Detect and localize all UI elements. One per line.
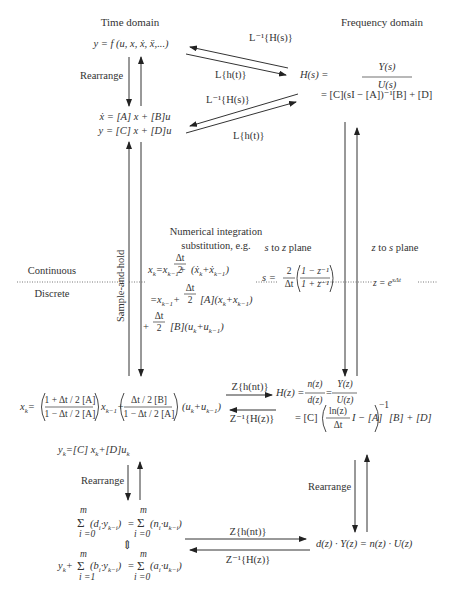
discrete-frac1-den: 1 − Δt / 2 [A] xyxy=(45,410,96,420)
sum1-rhs: (ni·uk−i) xyxy=(150,519,182,532)
hz-frac1-den: d(z) xyxy=(308,396,323,406)
sum1-sigma-right: Σ xyxy=(137,516,145,529)
hz-ss-frac-num: ln(z) xyxy=(329,407,347,417)
ode-equation: y = f (u, x, ẋ, ẍ,...) xyxy=(93,39,168,50)
s-to-z-label: s to z plane xyxy=(265,243,312,254)
discrete-frac2-num: Δt / 2 [B] xyxy=(131,396,167,406)
sum1-sigma-left: Σ xyxy=(77,516,85,529)
continuous-label: Continuous xyxy=(28,266,76,277)
hz-ss-frac-den: Δt xyxy=(334,421,343,431)
sum1-lhs: (di·yk−i) xyxy=(90,519,121,532)
hz-ss-exponent: −1 xyxy=(379,401,389,411)
z-forward-label-top: Z{h(nt)} xyxy=(232,382,269,393)
rearrange-label-bottom-right: Rearrange xyxy=(308,482,351,493)
sum2-bottom-right: i =0 xyxy=(134,573,150,583)
hz-ss-mid: I − [A] xyxy=(352,413,382,424)
s-to-z-inner-den: 1 + z⁻¹ xyxy=(301,280,328,290)
sum2-sigma-left: Σ xyxy=(77,559,85,572)
sum2-lhs: (bi·yk−i) xyxy=(90,561,121,574)
z-forward-label-bottom: Z{h(nt)} xyxy=(230,527,267,538)
integration-eq3-frac-den: 2 xyxy=(157,324,162,334)
laplace-forward-label-bottom: L{h(t)} xyxy=(233,131,265,142)
polynomial-equation: d(z) · Y(z) = n(z) · U(z) xyxy=(316,539,412,550)
sum2-rhs: (ai·uk−i) xyxy=(150,561,182,574)
s-to-z-eq-lhs: s = xyxy=(262,273,276,284)
discrete-label: Discrete xyxy=(35,289,70,300)
discrete-tail: (uk+uk−1) xyxy=(182,402,221,415)
numerical-integration-subtitle: substitution, e.g. xyxy=(181,241,250,252)
integration-eq2-frac-den: 2 xyxy=(188,296,193,306)
integration-eq3-frac-num: Δt xyxy=(155,312,164,322)
laplace-inverse-label-bottom: L⁻¹{H(s)} xyxy=(206,95,250,106)
state-space-transfer-function: = [C](sI − [A])⁻¹[B] + [D] xyxy=(321,90,432,101)
rearrange-label-bottom-left: Rearrange xyxy=(81,476,124,487)
hz-frac2-den: U(z) xyxy=(337,396,354,406)
z-inverse-label-bottom: Z⁻¹{H(z)} xyxy=(226,555,270,566)
hz-frac1-num: n(z) xyxy=(308,380,323,390)
integration-eq2-tail: [A](xk+xk−1) xyxy=(200,295,252,308)
integration-eq1-frac-num: Δt xyxy=(176,254,185,264)
s-to-z-frac-num: 2 xyxy=(287,267,292,277)
z-inverse-label-top: Z⁻¹{H(z)} xyxy=(230,414,274,425)
integration-eq1-frac-den: 2 xyxy=(178,266,183,276)
hz-ss-tail: [B] + [D] xyxy=(389,413,432,424)
z-to-s-eq: z = esΔt xyxy=(373,277,401,289)
sum1-bottom-right: i =0 xyxy=(134,530,150,540)
hz-equals: = xyxy=(326,388,332,399)
state-equation: ẋ = [A] x + [B]u xyxy=(99,112,170,123)
hz-ss-lead: = [C] xyxy=(295,413,318,424)
integration-eq3-tail: [B](uk+uk−1) xyxy=(170,322,224,335)
integration-eq2-frac-num: Δt xyxy=(186,284,195,294)
frequency-domain-heading: Frequency domain xyxy=(341,17,423,28)
sum2-bottom-left: i =1 xyxy=(79,573,95,583)
transfer-function-lhs: H(s) = xyxy=(300,70,328,81)
hz-frac2-num: Y(z) xyxy=(337,380,352,390)
laplace-inverse-label-top: L⁻¹{H(s)} xyxy=(249,33,293,44)
transfer-function-numerator: Y(s) xyxy=(379,62,396,73)
equivalence-symbol: ⇕ xyxy=(122,539,132,551)
discrete-frac1-num: 1 + Δt / 2 [A] xyxy=(45,396,96,406)
s-to-z-frac-den: Δt xyxy=(285,280,294,290)
discrete-mid: xk−1+ xyxy=(101,402,124,415)
sum2-sigma-right: Σ xyxy=(137,559,145,572)
rearrange-label-top: Rearrange xyxy=(80,71,123,82)
sum2-lead: yk+ xyxy=(58,561,73,574)
sample-and-hold-label: Sample-and-hold xyxy=(115,250,126,322)
s-to-z-inner-num: 1 − z⁻¹ xyxy=(301,267,328,277)
discrete-frac2-den: 1 − Δt / 2 [A] xyxy=(124,410,175,420)
integration-eq2-lead: =xk−1+ xyxy=(150,295,180,308)
laplace-forward-arrow-bottom xyxy=(186,102,296,133)
discrete-state-lhs: xk= xyxy=(20,402,35,415)
z-to-s-label: z to s plane xyxy=(372,243,419,254)
time-domain-heading: Time domain xyxy=(101,17,160,28)
sum1-equals: = xyxy=(128,519,134,530)
discrete-output-equation: yk=[C] xk+[D]uk xyxy=(58,445,130,458)
laplace-forward-label-top: L{h(t)} xyxy=(215,70,247,81)
output-equation: y = [C] x + [D]u xyxy=(99,126,172,137)
numerical-integration-title: Numerical integration xyxy=(170,227,262,238)
integration-eq3-plus: + xyxy=(143,322,149,333)
hz-lhs: H(z) = xyxy=(276,388,304,399)
integration-eq1-tail: (ẋk+ẋk−1) xyxy=(191,265,229,278)
sum2-equals: = xyxy=(128,561,134,572)
